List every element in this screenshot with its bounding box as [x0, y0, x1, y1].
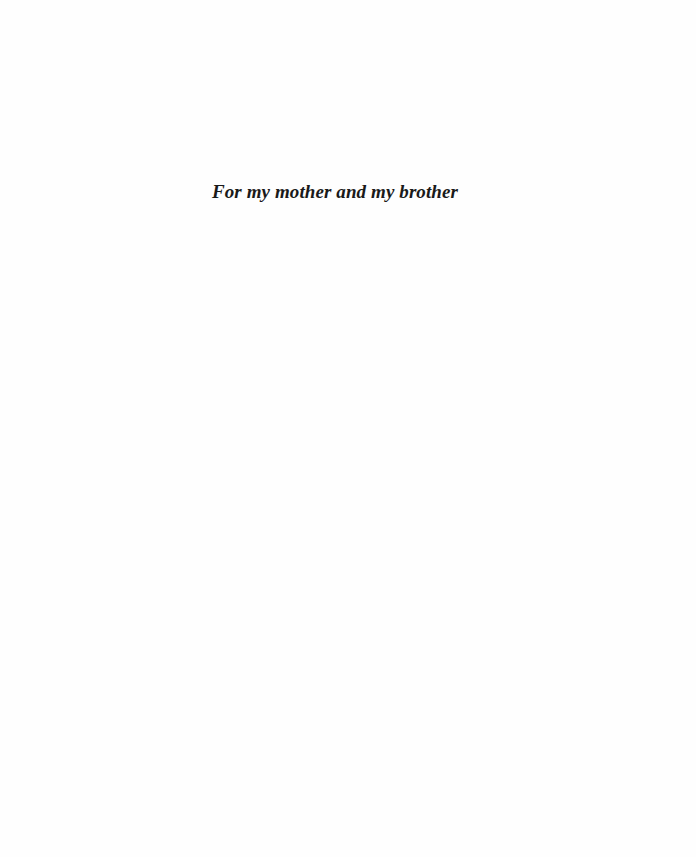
dedication-text: For my mother and my brother	[0, 181, 670, 203]
book-page: For my mother and my brother	[0, 0, 696, 857]
